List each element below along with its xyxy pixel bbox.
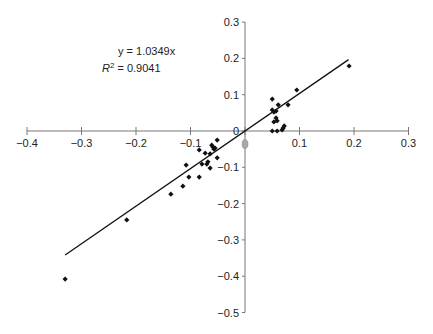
y-tick-label: −0.4 bbox=[217, 270, 239, 282]
equation-text: y = 1.0349x bbox=[118, 45, 176, 57]
data-point bbox=[203, 151, 208, 156]
data-point bbox=[184, 163, 189, 168]
trendline bbox=[65, 60, 348, 255]
data-point bbox=[186, 175, 191, 180]
y-tick-label: −0.2 bbox=[217, 198, 239, 210]
x-tick-label: −0.3 bbox=[71, 137, 93, 149]
y-axis: 0.30.20.10−0.1−0.2−0.3−0.4−0.5 bbox=[217, 16, 245, 318]
x-tick-label: 0.1 bbox=[292, 137, 307, 149]
x-tick-label: 0.3 bbox=[401, 137, 416, 149]
data-point bbox=[63, 277, 68, 282]
r-squared-label: R2 = 0.9041 bbox=[102, 61, 161, 74]
y-tick-label: −0.3 bbox=[217, 234, 239, 246]
data-point bbox=[275, 128, 280, 133]
scatter-chart: −0.4−0.3−0.2−0.10.10.20.3 0.30.20.10−0.1… bbox=[0, 0, 433, 334]
data-point bbox=[168, 192, 173, 197]
data-point bbox=[197, 175, 202, 180]
x-tick-label: −0.1 bbox=[180, 137, 202, 149]
data-point bbox=[124, 217, 129, 222]
data-point bbox=[346, 63, 351, 68]
data-point bbox=[215, 155, 220, 160]
data-points bbox=[63, 63, 352, 281]
y-tick-label: −0.5 bbox=[217, 307, 239, 319]
data-point bbox=[294, 87, 299, 92]
data-point bbox=[180, 184, 185, 189]
y-tick-label: 0.1 bbox=[224, 89, 239, 101]
y-tick-label: −0.1 bbox=[217, 161, 239, 173]
y-tick-label: 0.2 bbox=[224, 52, 239, 64]
origin-marker bbox=[242, 140, 248, 149]
equation-label: y = 1.0349x bbox=[118, 45, 176, 57]
data-point bbox=[208, 165, 213, 170]
data-point bbox=[270, 128, 275, 133]
y-tick-label: 0.3 bbox=[224, 16, 239, 28]
x-tick-label: 0.2 bbox=[346, 137, 361, 149]
r-squared-prefix: R bbox=[102, 62, 110, 74]
data-point bbox=[270, 96, 275, 101]
x-tick-label: −0.2 bbox=[125, 137, 147, 149]
data-point bbox=[215, 137, 220, 142]
x-axis: −0.4−0.3−0.2−0.10.10.20.3 bbox=[16, 127, 416, 149]
x-tick-label: −0.4 bbox=[16, 137, 38, 149]
r-squared-value: = 0.9041 bbox=[114, 62, 160, 74]
